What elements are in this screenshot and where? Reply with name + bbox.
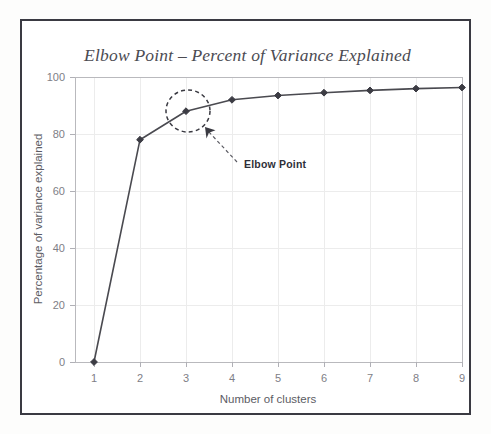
y-tick-20: 20 <box>53 299 65 311</box>
x-tick-1: 1 <box>91 372 97 384</box>
x-tick-4: 4 <box>229 372 235 384</box>
y-tick-80: 80 <box>53 128 65 140</box>
data-point-7 <box>367 87 374 94</box>
elbow-point-label: Elbow Point <box>244 158 307 170</box>
data-point-6 <box>321 89 328 96</box>
x-tick-8: 8 <box>413 372 419 384</box>
x-tick-5: 5 <box>275 372 281 384</box>
figure-frame: Elbow Point – Percent of Variance Explai… <box>20 19 471 415</box>
grid-vertical <box>94 77 462 362</box>
data-point-9 <box>459 84 466 91</box>
x-tick-2: 2 <box>137 372 143 384</box>
x-tick-9: 9 <box>459 372 465 384</box>
x-axis-tick-labels: 1 2 3 4 5 6 7 8 9 <box>91 372 465 384</box>
x-axis-tickmarks <box>94 362 462 367</box>
y-tick-60: 60 <box>53 185 65 197</box>
y-tick-100: 100 <box>47 71 65 83</box>
grid-horizontal <box>75 77 462 362</box>
data-point-4 <box>229 96 236 103</box>
y-tick-0: 0 <box>59 356 65 368</box>
y-axis-tickmarks <box>70 77 75 362</box>
y-axis-tick-labels: 100 80 60 40 20 0 <box>47 71 65 368</box>
y-tick-40: 40 <box>53 242 65 254</box>
figure-page: Elbow Point – Percent of Variance Explai… <box>0 0 491 434</box>
x-axis-title: Number of clusters <box>220 393 317 405</box>
plot-border <box>75 77 462 362</box>
data-point-1 <box>91 359 98 366</box>
data-point-5 <box>275 92 282 99</box>
elbow-connector-line <box>208 131 237 162</box>
x-tick-6: 6 <box>321 372 327 384</box>
data-point-8 <box>413 85 420 92</box>
elbow-chart: 100 80 60 40 20 0 1 <box>22 21 473 417</box>
x-tick-3: 3 <box>183 372 189 384</box>
x-tick-7: 7 <box>367 372 373 384</box>
y-axis-title: Percentage of variance explained <box>32 134 44 305</box>
